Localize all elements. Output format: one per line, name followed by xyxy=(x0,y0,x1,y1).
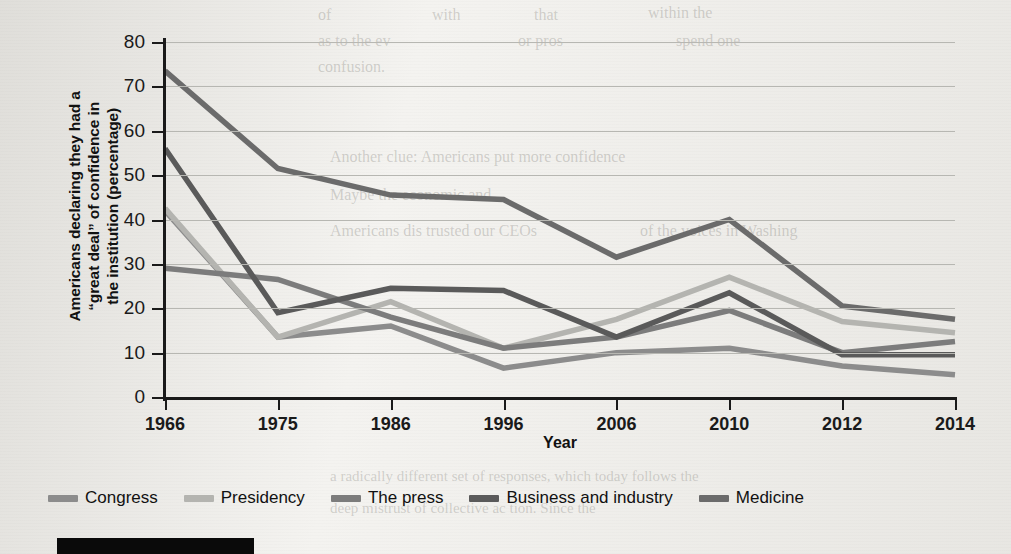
legend-item[interactable]: The press xyxy=(331,488,444,508)
gridlines xyxy=(165,42,955,397)
y-tick-mark xyxy=(152,42,165,44)
y-tick-mark xyxy=(152,131,165,133)
y-axis-title-line-1: Americans declaring they had a xyxy=(66,26,85,386)
legend-item[interactable]: Presidency xyxy=(184,488,305,508)
legend-swatch-icon xyxy=(331,495,361,502)
x-tick-label: 2012 xyxy=(797,414,887,435)
y-tick-mark xyxy=(152,353,165,355)
legend-swatch-icon xyxy=(184,495,214,502)
x-tick-mark xyxy=(504,398,506,410)
gridline xyxy=(165,308,955,309)
y-tick-label: 80 xyxy=(93,31,145,53)
y-tick-label: 20 xyxy=(93,297,145,319)
x-tick-mark xyxy=(616,398,618,410)
y-tick-label: 30 xyxy=(93,253,145,275)
gridline xyxy=(165,353,955,354)
x-tick-label: 1966 xyxy=(120,414,210,435)
legend-swatch-icon xyxy=(48,495,78,502)
legend-item[interactable]: Business and industry xyxy=(469,488,672,508)
y-tick-mark xyxy=(152,308,165,310)
x-tick-mark xyxy=(729,398,731,410)
y-tick-mark xyxy=(152,397,165,399)
y-tick-label: 40 xyxy=(93,209,145,231)
legend-swatch-icon xyxy=(699,495,729,502)
y-tick-label: 0 xyxy=(93,386,145,408)
gridline xyxy=(165,264,955,265)
legend-item[interactable]: Medicine xyxy=(699,488,804,508)
gridline xyxy=(165,86,955,87)
redacted-black-bar xyxy=(57,538,254,554)
y-tick-label: 60 xyxy=(93,120,145,142)
x-axis-title: Year xyxy=(165,434,955,452)
gridline xyxy=(165,131,955,132)
legend-label: Business and industry xyxy=(506,488,672,508)
plot-area: 01020304050607080 1966197519861996200620… xyxy=(165,42,955,397)
legend-label: Presidency xyxy=(221,488,305,508)
gridline xyxy=(165,175,955,176)
x-tick-mark xyxy=(391,398,393,410)
legend-item[interactable]: Congress xyxy=(48,488,158,508)
y-tick-mark xyxy=(152,175,165,177)
chart-legend: CongressPresidencyThe pressBusiness and … xyxy=(48,488,988,508)
x-tick-mark xyxy=(955,398,957,410)
line-chart-figure: Americans declaring they had a “great de… xyxy=(0,0,1011,554)
x-tick-label: 1996 xyxy=(459,414,549,435)
y-tick-mark xyxy=(152,220,165,222)
y-tick-label: 10 xyxy=(93,342,145,364)
legend-swatch-icon xyxy=(469,495,499,502)
x-axis-line xyxy=(163,397,957,400)
y-tick-label: 50 xyxy=(93,164,145,186)
y-tick-label: 70 xyxy=(93,75,145,97)
y-tick-mark xyxy=(152,264,165,266)
gridline xyxy=(165,220,955,221)
gridline xyxy=(165,42,955,43)
x-tick-label: 1986 xyxy=(346,414,436,435)
legend-label: Congress xyxy=(85,488,158,508)
legend-label: The press xyxy=(368,488,444,508)
x-tick-mark xyxy=(165,398,167,410)
legend-label: Medicine xyxy=(736,488,804,508)
y-tick-mark xyxy=(152,86,165,88)
x-tick-mark xyxy=(278,398,280,410)
x-tick-label: 1975 xyxy=(233,414,323,435)
x-tick-label: 2006 xyxy=(571,414,661,435)
x-tick-mark xyxy=(842,398,844,410)
x-tick-label: 2014 xyxy=(910,414,1000,435)
x-tick-label: 2010 xyxy=(684,414,774,435)
